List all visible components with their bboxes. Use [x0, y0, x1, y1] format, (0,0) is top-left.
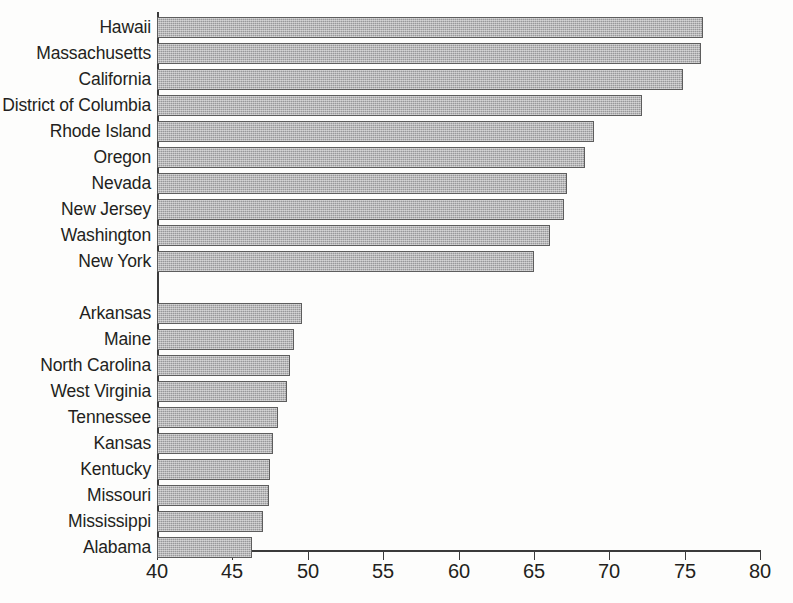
bar-chart: 404550556065707580 HawaiiMassachusettsCa…: [0, 0, 793, 603]
x-tick-label-65: 65: [523, 560, 545, 583]
category-label: New York: [0, 251, 151, 272]
category-label: Tennessee: [0, 407, 151, 428]
x-tick-label-55: 55: [372, 560, 394, 583]
bar: [157, 511, 263, 532]
bar: [157, 147, 585, 168]
bar: [157, 355, 290, 376]
bar: [157, 433, 273, 454]
category-label: Washington: [0, 225, 151, 246]
category-label: North Carolina: [0, 355, 151, 376]
category-label: Oregon: [0, 147, 151, 168]
bar: [157, 303, 302, 324]
x-tick-label-80: 80: [749, 560, 771, 583]
category-label: Nevada: [0, 173, 151, 194]
category-label: West Virginia: [0, 381, 151, 402]
bar: [157, 329, 294, 350]
x-tick-50: [308, 552, 309, 560]
category-label: Alabama: [0, 537, 151, 558]
category-label: Rhode Island: [0, 121, 151, 142]
category-label: Maine: [0, 329, 151, 350]
x-tick-55: [383, 552, 384, 560]
bar: [157, 43, 701, 64]
x-tick-80: [760, 552, 761, 560]
category-label: New Jersey: [0, 199, 151, 220]
x-tick-label-70: 70: [598, 560, 620, 583]
category-label: Hawaii: [0, 17, 151, 38]
bar: [157, 173, 567, 194]
x-tick-75: [685, 552, 686, 560]
category-label: Arkansas: [0, 303, 151, 324]
category-label: Kansas: [0, 433, 151, 454]
bar: [157, 459, 270, 480]
x-tick-label-45: 45: [221, 560, 243, 583]
category-label: Massachusetts: [0, 43, 151, 64]
bar: [157, 485, 269, 506]
bar: [157, 95, 642, 116]
category-label: District of Columbia: [0, 95, 151, 116]
bar: [157, 199, 564, 220]
x-tick-60: [459, 552, 460, 560]
bar: [157, 69, 683, 90]
category-label: Mississippi: [0, 511, 151, 532]
x-tick-label-40: 40: [146, 560, 168, 583]
bar: [157, 251, 534, 272]
x-tick-65: [534, 552, 535, 560]
category-label: Missouri: [0, 485, 151, 506]
bar: [157, 121, 594, 142]
x-tick-label-75: 75: [674, 560, 696, 583]
x-tick-label-60: 60: [448, 560, 470, 583]
category-label: Kentucky: [0, 459, 151, 480]
bar: [157, 17, 703, 38]
bar: [157, 537, 252, 558]
category-label: California: [0, 69, 151, 90]
x-tick-label-50: 50: [297, 560, 319, 583]
bar: [157, 407, 278, 428]
bar: [157, 381, 287, 402]
bar: [157, 225, 550, 246]
x-tick-70: [609, 552, 610, 560]
